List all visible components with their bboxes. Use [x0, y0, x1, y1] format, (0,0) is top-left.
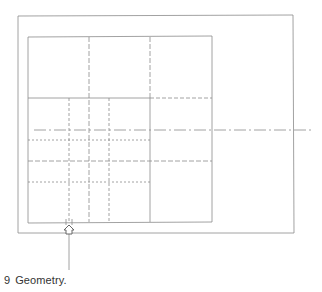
- outer-frame: [18, 15, 294, 233]
- inner-square: [28, 36, 212, 223]
- origin-marker-icon: [64, 225, 74, 234]
- figure-caption: 9Geometry.: [4, 274, 67, 286]
- figure-number: 9: [4, 274, 10, 286]
- figure-caption-text: Geometry.: [15, 274, 66, 286]
- geometry-diagram: [0, 0, 322, 292]
